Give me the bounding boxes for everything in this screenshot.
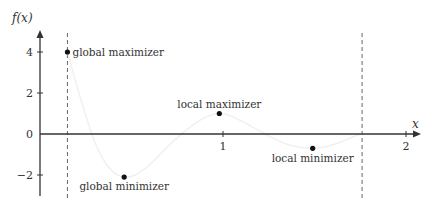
point-label: local maximizer [177, 98, 262, 110]
y-tick-label: 2 [26, 87, 33, 100]
point-marker-icon [217, 111, 222, 116]
y-tick-label: 0 [26, 128, 33, 141]
y-axis-title: f(x) [11, 11, 33, 25]
x-tick-label: 1 [220, 140, 227, 153]
point-label: global minimizer [79, 180, 170, 192]
point-marker-icon [310, 146, 315, 151]
y-tick-label: 4 [26, 46, 33, 59]
x-axis-arrow-icon [413, 131, 421, 138]
point-label: global maximizer [72, 46, 165, 58]
chart-canvas: 12 420−2 f(x) x global maximizerglobal m… [0, 0, 439, 208]
point-label: local minimizer [272, 152, 355, 164]
critical-points: global maximizerglobal minimizerlocal ma… [65, 46, 355, 192]
point-marker-icon [122, 174, 127, 179]
y-axis-arrow-icon [37, 30, 44, 38]
x-tick-label: 2 [403, 140, 410, 153]
point-marker-icon [65, 49, 70, 54]
x-axis-title: x [412, 117, 419, 131]
y-ticks: 420−2 [17, 46, 43, 182]
y-tick-label: −2 [17, 169, 33, 182]
